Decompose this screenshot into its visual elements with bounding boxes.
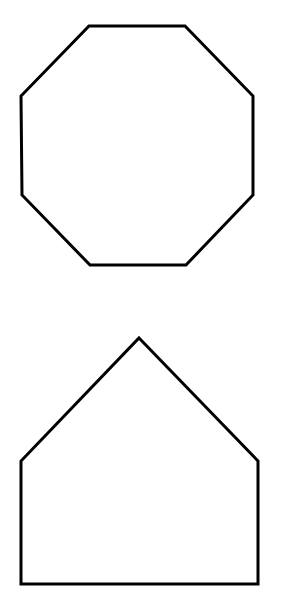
octagon-shape (21, 26, 253, 265)
diagram-canvas (0, 0, 288, 594)
pentagon-house-shape (21, 338, 258, 584)
